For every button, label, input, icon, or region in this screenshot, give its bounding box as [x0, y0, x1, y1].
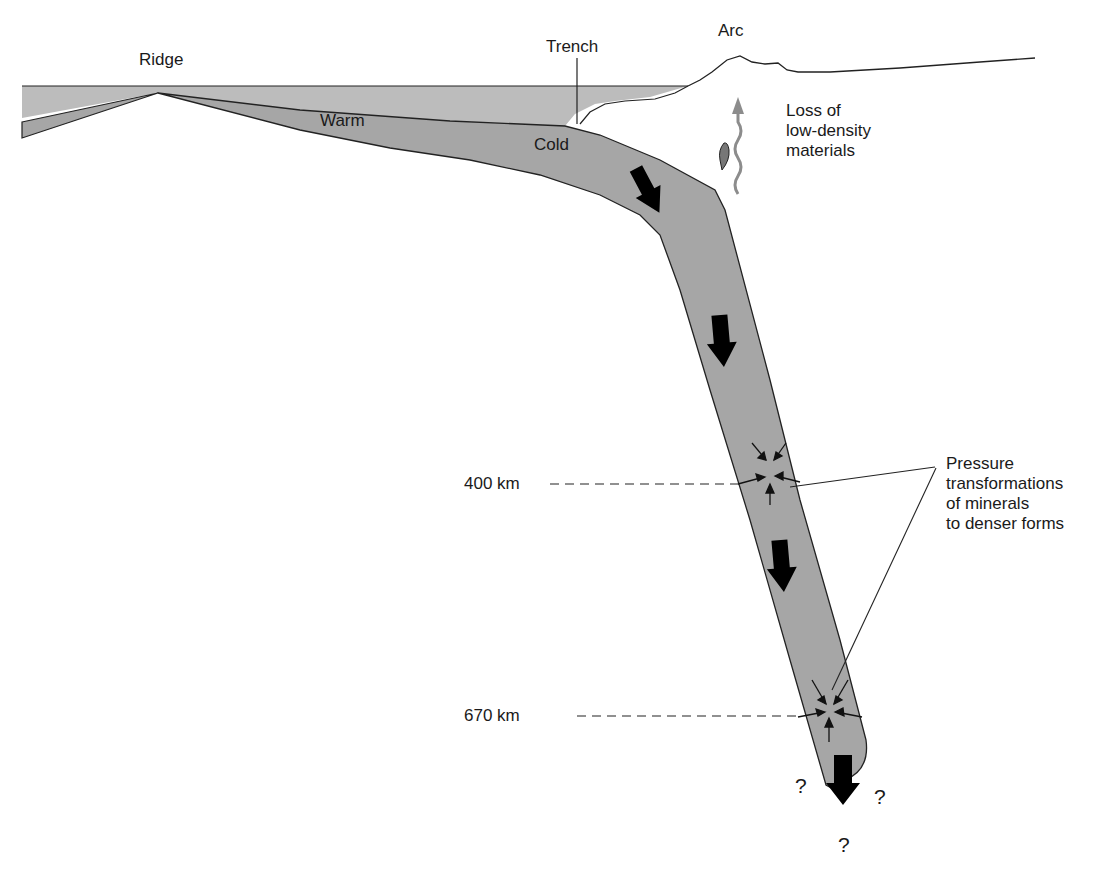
arc-label: Arc	[718, 21, 744, 41]
cold-label: Cold	[534, 135, 569, 155]
subducting-slab	[158, 93, 867, 790]
ridge-label: Ridge	[139, 50, 183, 70]
pressure-note: Pressure transformations of minerals to …	[946, 454, 1064, 534]
pressure-leader-400	[790, 467, 935, 487]
pressure-leader-670	[832, 468, 936, 690]
arc-profile	[688, 56, 1035, 86]
loss-wavy-arrow-icon	[735, 112, 741, 194]
loss-note: Loss of low-density materials	[786, 101, 871, 161]
loss-note-line-1: Loss of	[786, 101, 871, 121]
depth-400-label: 400 km	[464, 474, 520, 494]
pressure-note-line-4: to denser forms	[946, 514, 1064, 534]
unknown-mark-bottom: ?	[838, 833, 850, 857]
unknown-mark-right: ?	[874, 785, 886, 809]
pressure-note-line-2: transformations	[946, 474, 1064, 494]
loss-note-line-2: low-density	[786, 121, 871, 141]
unknown-mark-left: ?	[795, 774, 807, 798]
loss-arrowhead-icon	[732, 97, 744, 114]
subduction-diagram	[0, 0, 1113, 873]
magma-blob-icon	[720, 143, 730, 170]
warm-label: Warm	[320, 111, 365, 131]
pressure-note-line-1: Pressure	[946, 454, 1064, 474]
depth-670-label: 670 km	[464, 706, 520, 726]
loss-note-line-3: materials	[786, 141, 871, 161]
trench-label: Trench	[546, 37, 598, 57]
pressure-note-line-3: of minerals	[946, 494, 1064, 514]
